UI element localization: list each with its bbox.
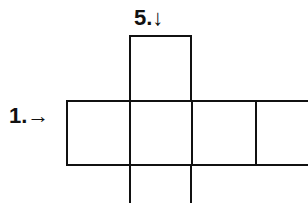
crossword-cell-1-across-1[interactable] [66,100,131,166]
clue-number: 5. [134,5,152,30]
crossword-cell-1-across-4[interactable] [255,100,308,166]
crossword-cell-5-down-1[interactable] [129,35,192,102]
arrow-down-icon: ↓ [152,7,163,29]
crossword-cell-1-across-3[interactable] [191,100,257,166]
arrow-right-icon: → [27,105,49,127]
clue-number: 1. [9,103,27,128]
clue-1-across-label: 1.→ [9,105,49,127]
crossword-cell-intersection[interactable] [129,100,193,166]
clue-5-down-label: 5.↓ [134,7,163,29]
crossword-cell-5-down-3[interactable] [129,164,192,203]
